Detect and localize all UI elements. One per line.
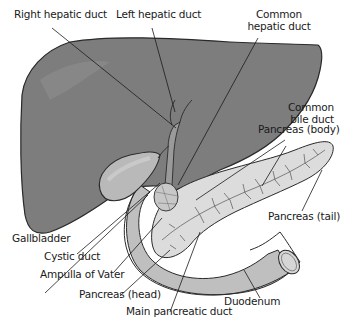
label-gallbladder: Gallbladder <box>12 232 70 244</box>
label-common-hepatic-duct-line1: Common <box>235 8 323 20</box>
label-cystic-duct: Cystic duct <box>44 250 100 262</box>
label-left-hepatic-duct: Left hepatic duct <box>116 8 201 20</box>
label-pancreas-head: Pancreas (head) <box>79 288 161 300</box>
label-common-hepatic-duct-line2: hepatic duct <box>235 20 323 32</box>
ampulla-region <box>154 183 178 211</box>
label-pancreas-body: Pancreas (body) <box>258 123 340 135</box>
label-duodenum: Duodenum <box>224 295 280 307</box>
label-pancreas-tail: Pancreas (tail) <box>268 210 340 222</box>
label-common-hepatic-duct: Common hepatic duct <box>235 8 323 32</box>
label-right-hepatic-duct: Right hepatic duct <box>14 8 107 20</box>
label-ampulla-of-vater: Ampulla of Vater <box>40 268 124 280</box>
label-common-bile-duct: Common bile duct <box>280 101 334 125</box>
label-common-bile-duct-line1: Common <box>280 101 334 113</box>
label-main-pancreatic-duct: Main pancreatic duct <box>126 305 232 317</box>
